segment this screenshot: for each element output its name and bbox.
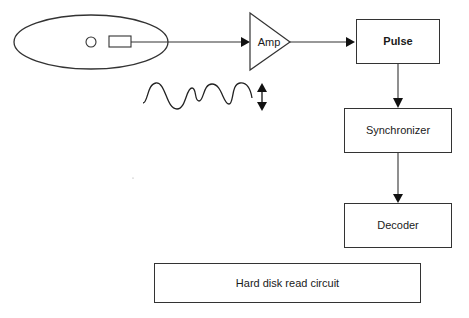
spindle-circle-icon [86, 37, 96, 47]
pulse-label: Pulse [383, 36, 412, 47]
arrowhead-icon [393, 98, 403, 108]
arrowhead-icon [241, 37, 250, 47]
arrow-down-icon [257, 102, 267, 111]
decoder-label: Decoder [377, 220, 419, 231]
arrowhead-icon [393, 194, 403, 203]
arrow-up-icon [257, 83, 267, 92]
stray-dot [132, 177, 133, 178]
caption-box: Hard disk read circuit [154, 263, 421, 303]
synchronizer-box: Synchronizer [344, 108, 452, 153]
amp-label: Amp [254, 37, 284, 48]
read-head-icon [109, 36, 131, 47]
waveform-icon [143, 83, 252, 109]
arrowhead-icon [346, 37, 355, 47]
synchronizer-label: Synchronizer [366, 125, 430, 136]
caption-label: Hard disk read circuit [236, 278, 339, 289]
pulse-box: Pulse [356, 19, 440, 64]
decoder-box: Decoder [344, 203, 452, 248]
